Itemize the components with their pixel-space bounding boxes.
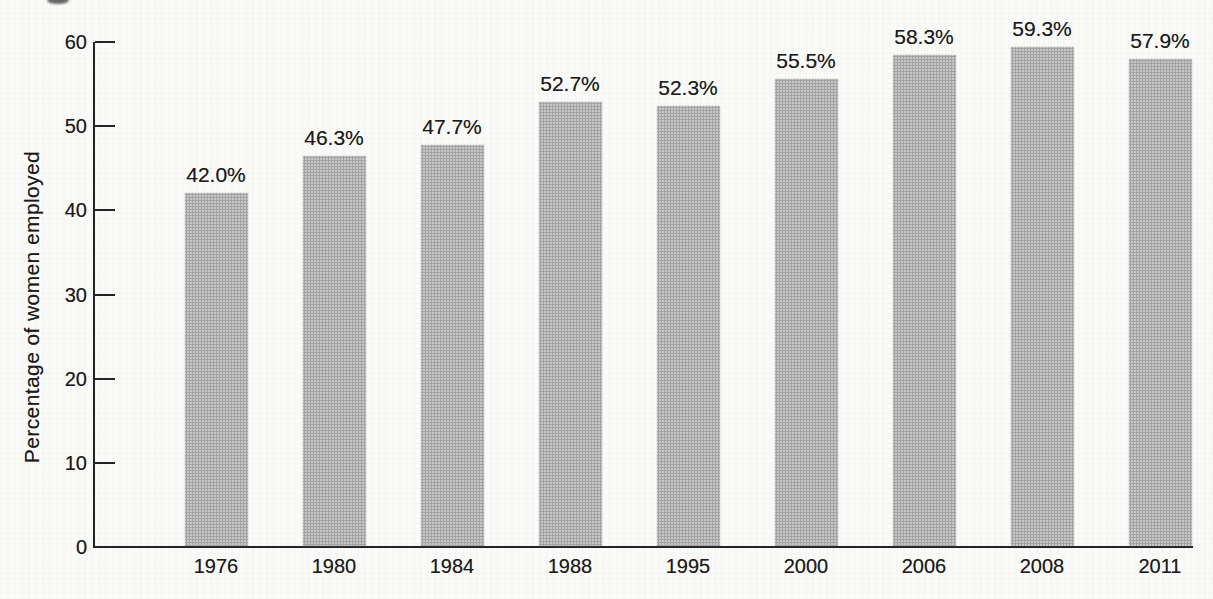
x-axis-tick-label: 1976	[156, 555, 276, 578]
bar-value-label: 55.5%	[746, 49, 866, 73]
x-axis-tick-label: 2011	[1100, 555, 1213, 578]
y-axis-tick-label: 60	[27, 31, 87, 53]
bar	[1129, 59, 1192, 546]
y-axis-tick-label: 40	[27, 199, 87, 221]
bar	[775, 79, 838, 546]
y-axis-tick	[95, 209, 115, 211]
y-axis-tick-label: 30	[27, 284, 87, 306]
bar-value-label: 52.3%	[628, 76, 748, 100]
x-axis-tick-label: 2000	[746, 555, 866, 578]
x-axis-tick-label: 1995	[628, 555, 748, 578]
y-axis-tick	[95, 41, 115, 43]
y-axis-title: Percentage of women employed	[20, 151, 44, 463]
y-axis-tick-label: 50	[27, 115, 87, 137]
bar	[893, 55, 956, 546]
bar-value-label: 52.7%	[510, 72, 630, 96]
bar	[421, 145, 484, 546]
bar	[1011, 47, 1074, 546]
x-axis-line	[93, 546, 1193, 548]
x-axis-tick-label: 1984	[392, 555, 512, 578]
bar	[657, 106, 720, 546]
y-axis-tick	[95, 462, 115, 464]
x-axis-tick-label: 1988	[510, 555, 630, 578]
bar-value-label: 47.7%	[392, 115, 512, 139]
y-axis-tick-label: 10	[27, 452, 87, 474]
y-axis-tick-label: 0	[27, 536, 87, 558]
bar-value-label: 59.3%	[982, 17, 1102, 41]
bar-value-label: 57.9%	[1100, 29, 1213, 53]
x-axis-tick-label: 2008	[982, 555, 1102, 578]
bar	[185, 193, 248, 547]
bar-value-label: 46.3%	[274, 126, 394, 150]
bar-chart: Percentage of women employed 01020304050…	[0, 0, 1213, 599]
x-axis-tick-label: 1980	[274, 555, 394, 578]
bar	[303, 156, 366, 546]
y-axis-tick-label: 20	[27, 368, 87, 390]
bar-value-label: 42.0%	[156, 163, 276, 187]
y-axis-tick	[95, 378, 115, 380]
bar-value-label: 58.3%	[864, 25, 984, 49]
x-axis-tick-label: 2006	[864, 555, 984, 578]
y-axis-tick	[95, 294, 115, 296]
y-axis-tick	[95, 125, 115, 127]
bar	[539, 102, 602, 546]
